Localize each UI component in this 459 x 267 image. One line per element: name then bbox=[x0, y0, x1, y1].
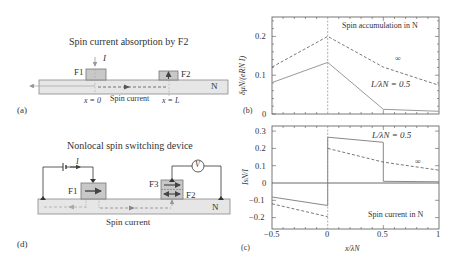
panel-d-f2-label: F2 bbox=[186, 190, 196, 200]
plot-c-ratio-label: L/λN = 0.5 bbox=[372, 130, 411, 140]
plot-c-xlabel: x/λN bbox=[345, 244, 360, 253]
c-xtick-0: 0 bbox=[325, 229, 329, 239]
panel-a-spin-current-label: Spin current bbox=[110, 94, 149, 103]
series-infinity-c bbox=[272, 204, 328, 217]
n-channel-d bbox=[38, 199, 230, 214]
c-ytick-0.3: 0.3 bbox=[255, 126, 266, 136]
plot-b-ylabel: δμN/(eRN I) bbox=[238, 56, 247, 95]
c-ytick-neg0.2: −0.2 bbox=[249, 212, 264, 222]
panel-a-diagram bbox=[30, 57, 228, 97]
plot-b-label: (b) bbox=[243, 106, 252, 115]
series-ratio-0.5-c bbox=[272, 137, 439, 205]
c-ytick-0.2: 0.2 bbox=[255, 143, 266, 153]
plot-c-annotation-title: Spin current in N bbox=[368, 210, 423, 219]
panel-d-f3-label: F3 bbox=[149, 179, 159, 189]
panel-d-label: (d) bbox=[17, 239, 28, 249]
panel-d-n-label: N bbox=[212, 202, 219, 212]
panel-a-current-label: I bbox=[103, 53, 106, 63]
c-xtick-0.5: 0.5 bbox=[377, 229, 388, 239]
panel-d-f1-label: F1 bbox=[68, 186, 78, 196]
plot-c-label: (c) bbox=[241, 243, 250, 252]
panel-d-title: Nonlocal spin switching device bbox=[67, 140, 193, 151]
series-infinity bbox=[272, 36, 439, 85]
panel-a-title: Spin current absorption by F2 bbox=[69, 36, 188, 47]
panel-d-spin-current-label: Spin current bbox=[106, 217, 150, 227]
panel-d-diagram bbox=[38, 160, 230, 214]
c-ytick-neg0.1: −0.1 bbox=[249, 195, 264, 205]
c-xtick-neg0.5: −0.5 bbox=[264, 229, 279, 239]
plot-b-infinity-label: ∞ bbox=[395, 54, 401, 63]
voltmeter-label: V bbox=[195, 160, 200, 169]
panel-a-label: (a) bbox=[17, 105, 27, 115]
plot-b-annotation-title: Spin accumulation in N bbox=[342, 21, 418, 30]
plot-c-ylabel: IsN/I bbox=[241, 169, 250, 185]
panel-a-n-label: N bbox=[211, 81, 218, 91]
panel-a-f1-label: F1 bbox=[74, 67, 84, 77]
series-ratio-0.5 bbox=[272, 62, 439, 111]
b-ytick-0: 0 bbox=[262, 109, 266, 119]
c-ytick-0.1: 0.1 bbox=[255, 161, 266, 171]
b-ytick-0.2: 0.2 bbox=[255, 31, 266, 41]
panel-a-f2-label: F2 bbox=[181, 69, 191, 79]
x-L-label: x = L bbox=[162, 96, 179, 105]
b-ytick-0.1: 0.1 bbox=[255, 70, 266, 80]
f1-electrode bbox=[86, 69, 106, 80]
c-xtick-1: 1 bbox=[436, 229, 440, 239]
plot-b-ratio-label: L/λN = 0.5 bbox=[371, 79, 410, 89]
x-zero-label: x = 0 bbox=[84, 96, 101, 105]
c-ytick-0: 0 bbox=[262, 178, 266, 188]
plot-c-infinity-label: ∞ bbox=[415, 157, 421, 166]
plot-b-axes bbox=[272, 17, 439, 114]
panel-d-current-label: I bbox=[76, 157, 79, 166]
